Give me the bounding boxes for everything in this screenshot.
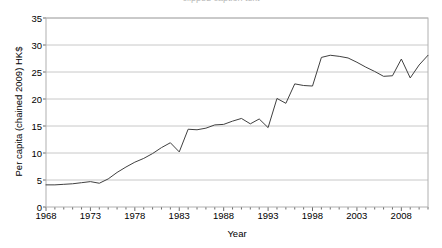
plot-canvas [0,0,442,248]
data-series-line [46,55,428,185]
x-axis-tick-marks [46,207,428,211]
plot-area-border [46,18,428,207]
gridlines [46,18,428,180]
chart-figure: clipped caption text Per capita (chained… [0,0,442,248]
